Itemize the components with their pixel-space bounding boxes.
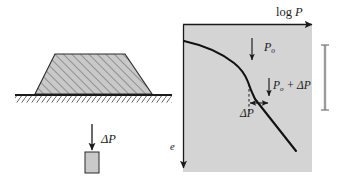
delta-p-load-label: ΔP [101, 133, 116, 146]
scale-bar [321, 45, 329, 110]
p-o-plus-delta-p-annotation-label: Po + ΔP [273, 80, 311, 93]
p-o-annotation-label: Po [264, 41, 275, 54]
x-axis-label-log-p: log P [276, 6, 303, 19]
figure-root: log P e Po Po + ΔP ΔP ΔP [0, 0, 338, 183]
e-log-p-plot [183, 25, 312, 173]
x-axis-label-log-variable: P [295, 5, 303, 19]
p-o-subscript: o [271, 46, 275, 55]
y-axis-label-e: e [170, 142, 175, 153]
embankment-trapezoid [35, 54, 152, 94]
embankment-cross-section [15, 54, 172, 173]
x-axis-label-log-prefix: log [276, 5, 295, 19]
p-o-plus-symbol: P [273, 79, 280, 91]
load-element-block [85, 152, 99, 173]
p-o-plus-suffix: + ΔP [284, 79, 311, 91]
delta-p-span-label: ΔP [240, 108, 254, 120]
ground-hatching [15, 96, 172, 103]
